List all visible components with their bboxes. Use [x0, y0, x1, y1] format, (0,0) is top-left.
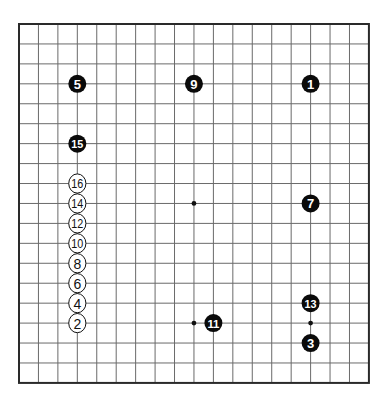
move-number-label: 4: [73, 296, 81, 312]
move-number-label: 3: [307, 336, 314, 351]
stone-move-13: 13: [302, 294, 320, 312]
stone-move-3: 3: [302, 334, 320, 352]
stone-move-12: 12: [69, 214, 86, 233]
stone-move-10: 10: [69, 234, 86, 253]
move-number-label: 10: [71, 237, 83, 251]
stone-move-6: 6: [69, 274, 86, 293]
move-number-label: 15: [71, 138, 83, 150]
star-point: [192, 201, 197, 206]
move-number-label: 9: [190, 77, 197, 92]
stone-move-16: 16: [69, 174, 86, 193]
stone-move-1: 1: [302, 75, 320, 93]
stone-move-14: 14: [69, 194, 86, 213]
star-point: [308, 321, 313, 326]
stone-move-8: 8: [69, 254, 86, 273]
move-number-label: 16: [71, 177, 83, 191]
move-number-label: 8: [73, 256, 81, 272]
stone-move-7: 7: [302, 194, 320, 212]
move-number-label: 6: [73, 276, 81, 292]
move-number-label: 11: [207, 318, 219, 330]
stone-move-4: 4: [69, 294, 86, 313]
stone-move-9: 9: [185, 75, 203, 93]
stone-move-2: 2: [69, 314, 86, 333]
move-number-label: 14: [71, 197, 83, 211]
move-number-label: 5: [74, 77, 81, 92]
move-number-label: 1: [307, 77, 314, 92]
stone-move-5: 5: [68, 75, 86, 93]
go-board-diagram: 12345678910111213141516: [0, 0, 389, 403]
star-point: [192, 321, 197, 326]
move-number-label: 12: [71, 217, 83, 231]
move-number-label: 13: [305, 298, 317, 310]
move-number-label: 7: [307, 196, 314, 211]
stone-move-11: 11: [204, 314, 222, 332]
stone-move-15: 15: [68, 135, 86, 153]
go-board: 12345678910111213141516: [0, 0, 389, 403]
move-number-label: 2: [73, 316, 81, 332]
